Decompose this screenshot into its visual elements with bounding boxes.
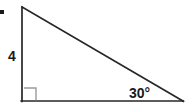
triangle-outline — [21, 7, 183, 101]
leg-length-label: 4 — [8, 49, 16, 63]
hypotenuse-line — [22, 7, 184, 101]
right-triangle-svg — [0, 0, 185, 109]
right-angle-marker-icon — [24, 88, 36, 100]
geometry-figure: 4 30° — [0, 0, 185, 109]
angle-measure-label: 30° — [129, 86, 150, 100]
corner-dot-mark — [0, 10, 4, 14]
